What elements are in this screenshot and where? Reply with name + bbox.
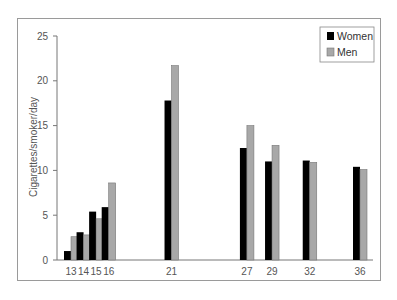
bar-men-16 xyxy=(109,183,116,260)
x-tick-label: 21 xyxy=(166,266,178,277)
bar-women-21 xyxy=(165,101,172,260)
x-tick-label: 16 xyxy=(103,266,115,277)
bar-women-32 xyxy=(303,161,310,260)
y-tick-label: 25 xyxy=(37,31,49,42)
bar-women-15 xyxy=(89,212,96,260)
x-tick-label: 29 xyxy=(266,266,278,277)
legend-label-men: Men xyxy=(337,46,358,58)
bar-women-29 xyxy=(265,161,272,260)
legend: Women Men xyxy=(320,27,374,62)
y-tick-label: 0 xyxy=(42,255,48,266)
y-tick-label: 5 xyxy=(42,210,48,221)
bar-chart: 0510152025 131415162127293236 Cigarettes… xyxy=(0,0,397,300)
legend-swatch-men xyxy=(327,48,334,56)
x-tick-label: 14 xyxy=(78,266,90,277)
bar-men-27 xyxy=(247,126,254,260)
x-axis: 131415162127293236 xyxy=(57,260,373,277)
y-tick-label: 20 xyxy=(37,75,49,86)
bar-women-13 xyxy=(64,251,71,260)
bar-men-36 xyxy=(360,170,367,260)
bars xyxy=(64,66,367,260)
y-axis: 0510152025 xyxy=(37,31,57,266)
x-tick-label: 36 xyxy=(354,266,366,277)
y-axis-label: Cigarettes/smoker/day xyxy=(28,97,39,197)
legend-label-women: Women xyxy=(337,30,373,42)
x-tick-label: 27 xyxy=(241,266,253,277)
bar-men-29 xyxy=(272,145,279,260)
bar-women-16 xyxy=(102,207,109,260)
bar-women-27 xyxy=(240,148,247,260)
bar-men-32 xyxy=(310,162,317,260)
bar-women-14 xyxy=(77,232,84,260)
legend-swatch-women xyxy=(327,32,334,40)
x-tick-label: 13 xyxy=(65,266,77,277)
bar-men-21 xyxy=(172,66,179,260)
x-tick-label: 15 xyxy=(91,266,103,277)
x-tick-label: 32 xyxy=(304,266,316,277)
bar-women-36 xyxy=(353,167,360,260)
